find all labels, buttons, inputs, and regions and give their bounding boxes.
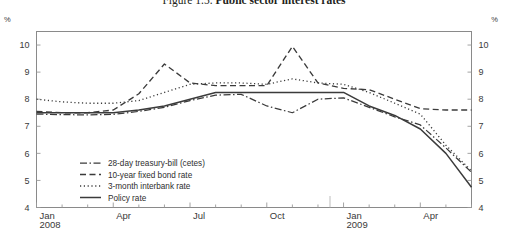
series-layer	[37, 46, 472, 187]
y-tick-label-right: 6	[479, 149, 484, 159]
y-tick-label-left: 9	[24, 67, 29, 77]
series-line	[37, 94, 472, 172]
y-tick-label-right: 4	[479, 203, 484, 213]
y-axis-left: 45678910	[19, 40, 40, 212]
legend-label: 3-month interbank rate	[108, 182, 191, 191]
y-tick-label-right: 5	[479, 176, 484, 186]
x-tick-label: Jul	[193, 210, 205, 221]
legend-label: 28-day treasury-bill (cetes)	[108, 159, 205, 168]
y-axis-unit-right: %	[491, 15, 498, 24]
y-tick-label-left: 10	[19, 40, 29, 50]
figure-container: Figure 1.5. Public sector interest rates…	[0, 0, 508, 240]
y-tick-label-right: 9	[479, 67, 484, 77]
x-tick-label: Apr	[423, 210, 438, 221]
legend-label: 10-year fixed bond rate	[108, 171, 193, 180]
x-axis: Jan2008AprJulOctJan2009Apr	[37, 203, 472, 230]
plot-frame	[37, 32, 472, 208]
series-line	[37, 92, 472, 187]
legend-label: Policy rate	[108, 194, 147, 203]
figure-title-main: Public sector interest rates	[215, 0, 345, 6]
y-tick-label-left: 8	[24, 94, 29, 104]
figure-title: Figure 1.5. Public sector interest rates	[0, 0, 508, 7]
x-tick-sublabel: 2008	[40, 219, 61, 230]
figure-title-prefix: Figure 1.5.	[162, 0, 215, 6]
x-tick-label: Apr	[116, 210, 131, 221]
y-tick-label-right: 8	[479, 94, 484, 104]
y-tick-label-left: 5	[24, 176, 29, 186]
x-tick-sublabel: 2009	[347, 219, 368, 230]
x-tick-label: Oct	[270, 210, 285, 221]
y-tick-label-left: 7	[24, 121, 29, 131]
chart-legend: 28-day treasury-bill (cetes)10-year fixe…	[80, 159, 205, 203]
interest-rates-line-chart: % % 45678910 45678910 Jan2008AprJulOctJa…	[0, 0, 508, 240]
y-tick-label-right: 7	[479, 121, 484, 131]
y-tick-label-left: 6	[24, 149, 29, 159]
y-tick-label-left: 4	[24, 203, 29, 213]
y-axis-unit-left: %	[4, 15, 11, 24]
y-tick-label-right: 10	[479, 40, 489, 50]
